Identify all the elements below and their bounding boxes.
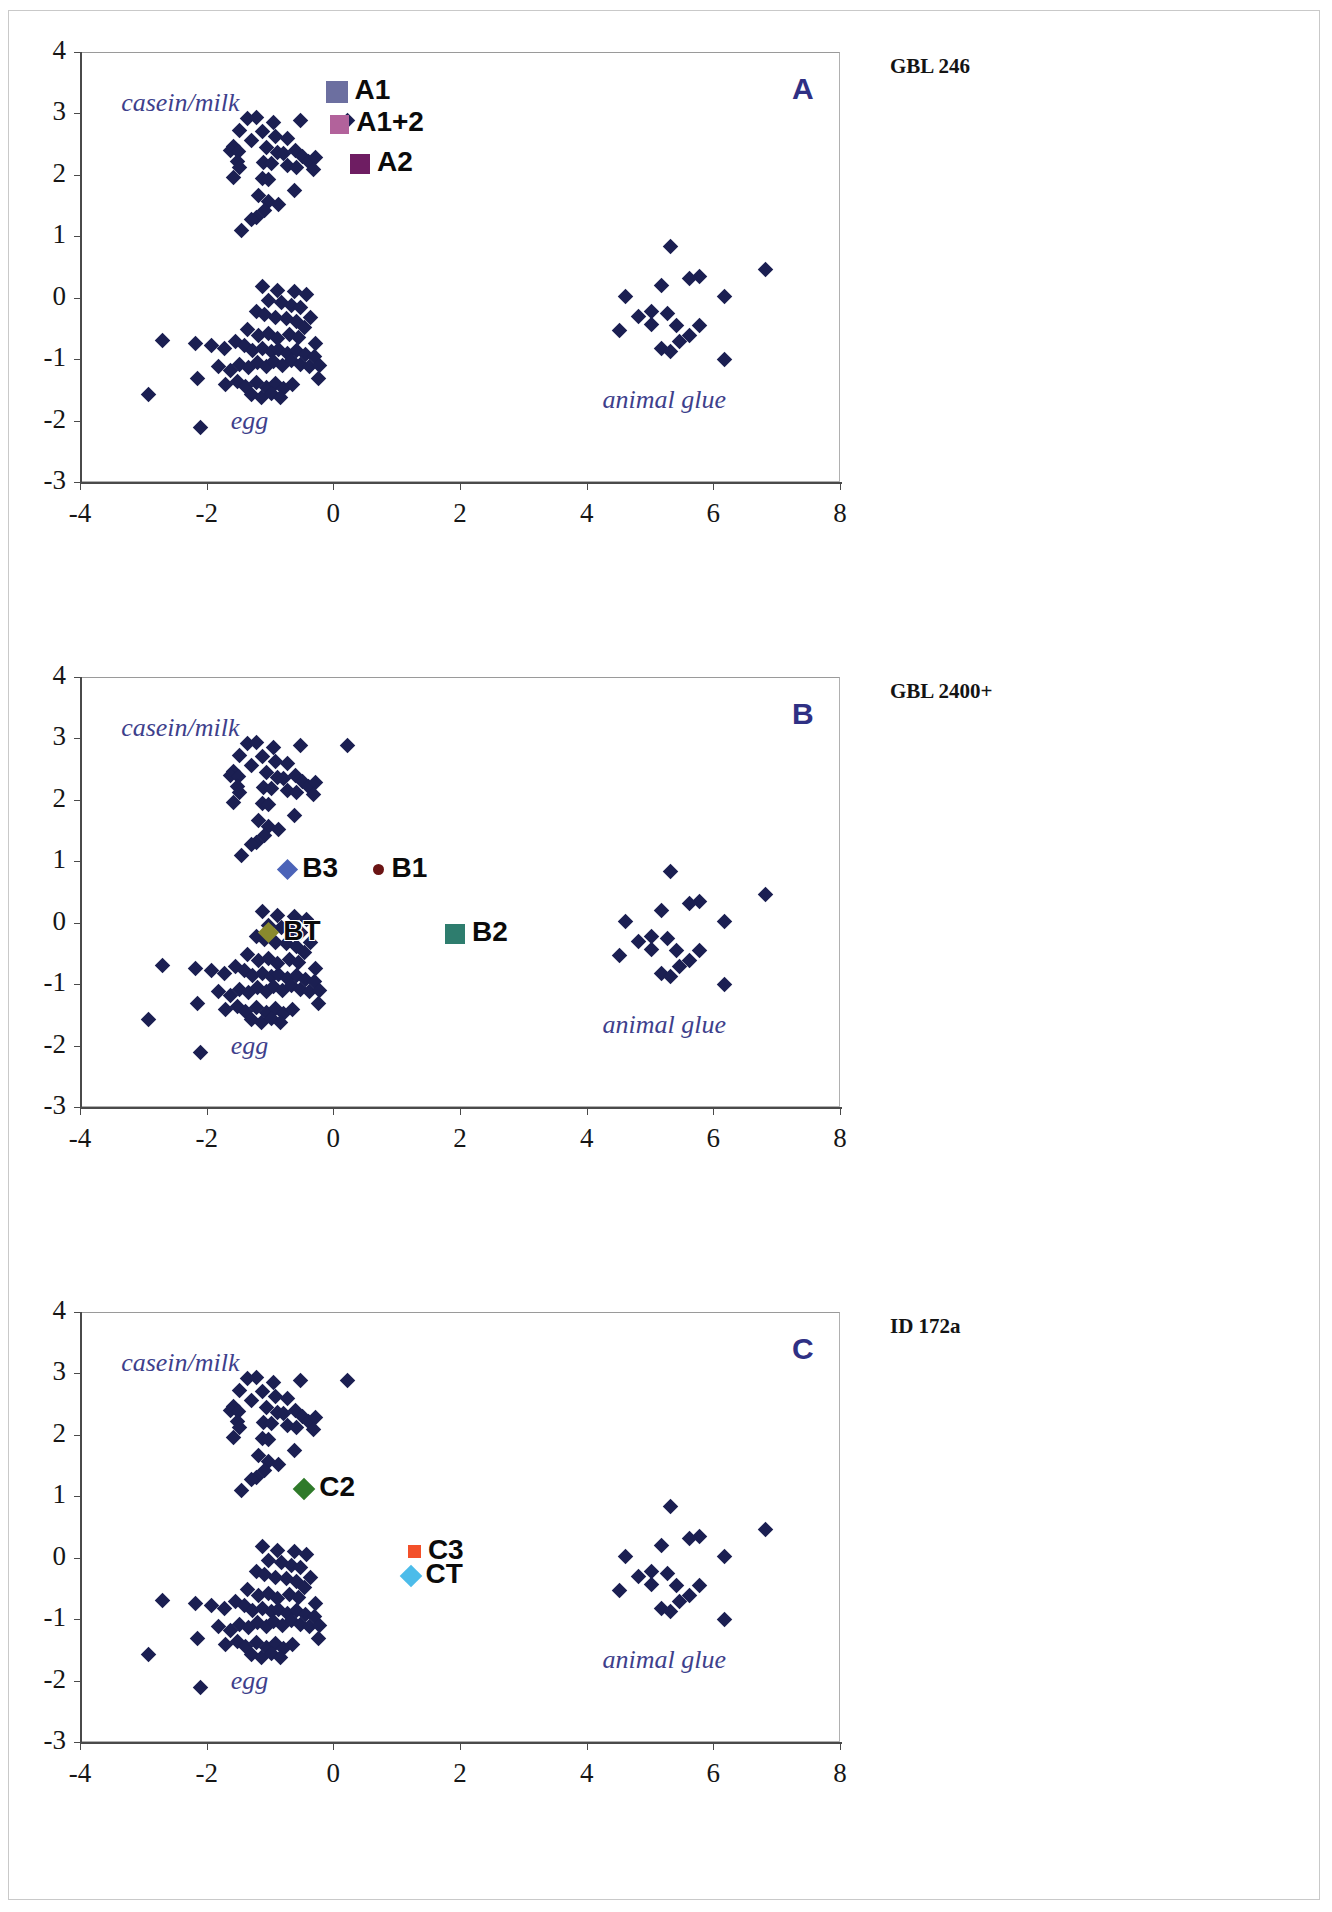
cluster-label-casein: casein/milk [121,1348,239,1378]
y-tick [74,984,82,985]
y-tick-label: -2 [32,1029,66,1060]
y-tick-label: 3 [32,1356,66,1387]
x-tick [460,1742,461,1750]
cluster-label-animal-glue: animal glue [603,385,727,415]
y-tick [74,923,82,924]
x-tick-label: -2 [182,1758,232,1789]
y-tick [74,1046,82,1047]
sample-marker-label-c2: C2 [319,1471,355,1503]
y-tick [74,175,82,176]
panel-letter-a: A [792,72,814,106]
sample-marker-b2 [445,924,465,944]
y-tick-label: -1 [32,967,66,998]
cluster-label-animal-glue: animal glue [603,1645,727,1675]
x-tick-label: -2 [182,1123,232,1154]
x-tick [333,1107,334,1115]
y-tick-label: 1 [32,219,66,250]
y-tick-label: -2 [32,1664,66,1695]
x-tick [840,1107,841,1115]
y-tick-label: -1 [32,342,66,373]
panel-letter-c: C [792,1332,814,1366]
x-tick [840,482,841,490]
sample-marker-label-b1: B1 [391,852,427,884]
y-tick-label: -3 [32,1090,66,1121]
y-tick-label: -2 [32,404,66,435]
y-tick [74,861,82,862]
y-tick [74,1496,82,1497]
y-tick-label: 4 [32,35,66,66]
y-tick-label: 2 [32,158,66,189]
x-tick-label: 2 [435,1123,485,1154]
cluster-label-casein: casein/milk [121,713,239,743]
x-tick-label: -4 [55,1123,105,1154]
x-tick-label: 8 [815,1123,865,1154]
y-tick-label: 1 [32,1479,66,1510]
y-tick [74,1681,82,1682]
y-tick [74,359,82,360]
y-tick [74,421,82,422]
x-tick [207,1107,208,1115]
y-tick-label: 0 [32,1541,66,1572]
y-tick [74,113,82,114]
x-tick [587,1742,588,1750]
x-axis-line [80,482,842,484]
cluster-label-animal-glue: animal glue [603,1010,727,1040]
x-tick [587,1107,588,1115]
x-tick-label: 2 [435,1758,485,1789]
panel-letter-b: B [792,697,814,731]
x-tick [713,1742,714,1750]
x-tick-label: -2 [182,498,232,529]
panel-title-c: ID 172a [890,1314,961,1339]
x-tick-label: 4 [562,1123,612,1154]
y-tick-label: 4 [32,1295,66,1326]
x-tick [713,1107,714,1115]
x-tick [713,482,714,490]
y-tick-label: 4 [32,660,66,691]
y-axis-line [80,677,82,1109]
y-tick [74,738,82,739]
x-tick-label: 8 [815,498,865,529]
x-tick-label: 0 [308,1758,358,1789]
y-tick [74,236,82,237]
y-tick [74,800,82,801]
y-tick-label: -3 [32,1725,66,1756]
x-tick [80,1107,81,1115]
y-tick-label: 1 [32,844,66,875]
x-tick [587,482,588,490]
y-tick-label: 3 [32,96,66,127]
cluster-label-egg: egg [231,1666,269,1696]
sample-marker-a2 [350,154,370,174]
x-tick [460,1107,461,1115]
x-tick-label: 2 [435,498,485,529]
cluster-label-egg: egg [231,1031,269,1061]
y-tick [74,1435,82,1436]
sample-marker-label-b3: B3 [302,852,338,884]
x-tick-label: 6 [688,498,738,529]
x-tick-label: 4 [562,1758,612,1789]
sample-marker-label-a2: A2 [377,146,413,178]
x-tick-label: 6 [688,1123,738,1154]
y-tick-label: 3 [32,721,66,752]
x-tick [80,1742,81,1750]
y-tick-label: 2 [32,783,66,814]
y-tick-label: 0 [32,906,66,937]
panel-title-a: GBL 246 [890,54,970,79]
sample-marker-a1-2 [330,115,349,134]
sample-marker-c3 [408,1545,421,1558]
x-tick [333,1742,334,1750]
y-tick [74,1373,82,1374]
x-tick-label: 0 [308,498,358,529]
x-tick-label: 8 [815,1758,865,1789]
y-tick-label: -1 [32,1602,66,1633]
cluster-label-egg: egg [231,406,269,436]
x-tick-label: -4 [55,498,105,529]
y-tick [74,52,82,53]
x-tick [460,482,461,490]
y-tick [74,1312,82,1313]
y-tick [74,1619,82,1620]
x-tick [207,1742,208,1750]
x-axis-line [80,1742,842,1744]
sample-marker-label-a1-2: A1+2 [356,106,424,138]
sample-marker-label-a1: A1 [355,74,391,106]
panel-a: 43210-1-2-3-4-202468casein/milkegganimal… [30,30,1300,530]
